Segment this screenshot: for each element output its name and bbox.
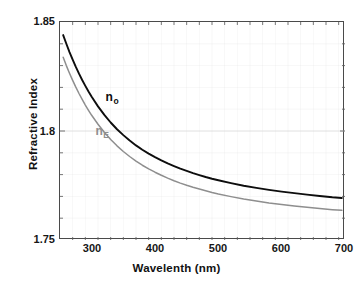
x-axis-title: Wavelenth (nm) xyxy=(0,262,353,274)
x-axis-tick-label-400: 400 xyxy=(125,242,185,254)
series-label-subscript: E xyxy=(103,130,109,140)
y-axis-title: Refractive Index xyxy=(27,44,39,204)
series-label-base: n xyxy=(96,124,103,138)
series-label-subscript: o xyxy=(113,96,119,106)
y-axis-tick-label-1-85: 1.85 xyxy=(0,15,55,27)
x-axis-tick-label-600: 600 xyxy=(251,242,311,254)
plot-area: no nE xyxy=(59,21,344,239)
x-axis-tick-label-700: 700 xyxy=(314,242,358,254)
x-axis-tick-label-300: 300 xyxy=(62,242,122,254)
series-label-base: n xyxy=(106,90,113,104)
series-label-n-o: no xyxy=(106,91,119,105)
x-axis-tick-label-500: 500 xyxy=(188,242,248,254)
series-label-n-E: nE xyxy=(96,125,110,139)
y-axis-tick-label-1-75: 1.75 xyxy=(0,233,55,245)
